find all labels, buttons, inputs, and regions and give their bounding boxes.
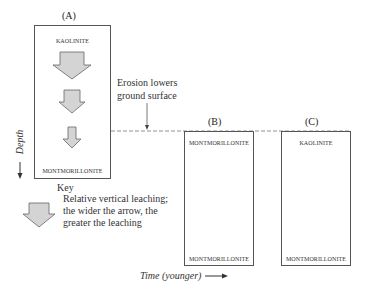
erosion-note-line2: ground surface	[117, 90, 177, 102]
key-line1: Relative vertical leaching;	[63, 193, 168, 205]
erosion-note-line1: Erosion lowers	[117, 77, 177, 89]
panel-b-top-mineral: MONTMORILLONITE	[184, 140, 254, 146]
depth-axis-label: Depth	[14, 124, 26, 160]
panel-c-top-mineral: KAOLINITE	[281, 140, 351, 146]
panel-b-bottom-mineral: MONTMORILLONITE	[184, 256, 254, 262]
panel-c-bottom-mineral: MONTMORILLONITE	[281, 256, 351, 262]
panel-b-label: (B)	[208, 116, 221, 127]
key-line2: the wider the arrow, the	[63, 205, 158, 217]
panel-c-label: (C)	[305, 116, 318, 127]
panel-c-box	[281, 131, 351, 266]
key-line3: greater the leaching	[63, 217, 142, 229]
panel-b-box	[184, 131, 254, 266]
time-axis-label: Time (younger)	[140, 270, 201, 282]
